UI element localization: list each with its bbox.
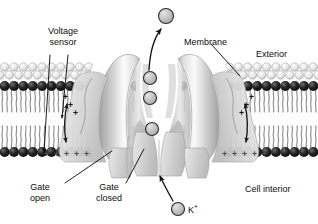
lipid-headgroup <box>290 147 300 157</box>
arrow-ion-entry <box>160 176 173 201</box>
ion-pore-lower <box>146 123 159 136</box>
lipid-headgroup <box>253 63 261 71</box>
lipid-headgroup <box>0 71 4 79</box>
gate-closed-right <box>161 132 186 176</box>
lipid-headgroup <box>0 147 10 157</box>
lipid-headgroup <box>234 63 242 71</box>
lipid-headgroup <box>262 81 272 91</box>
lipid-headgroup <box>276 71 284 79</box>
lipid-headgroup <box>258 71 266 79</box>
lipid-headgroup <box>38 63 46 71</box>
lipid-headgroup <box>299 81 309 91</box>
lipid-headgroup <box>244 63 252 71</box>
lipid-headgroup <box>75 63 83 71</box>
lipid-headgroup <box>150 63 158 71</box>
lipid-headgroup <box>28 147 38 157</box>
lipid-headgroup <box>290 63 298 71</box>
lipid-headgroup <box>271 147 281 157</box>
lipid-headgroup <box>308 81 318 91</box>
lipid-headgroup <box>281 63 289 71</box>
lipid-headgroup <box>37 81 47 91</box>
lipid-headgroup <box>159 81 169 91</box>
svg-text:+: + <box>57 84 62 94</box>
lipid-headgroup <box>5 71 13 79</box>
lipid-headgroup <box>85 63 93 71</box>
lipid-headgroup <box>248 71 256 79</box>
svg-text:+: + <box>249 92 254 102</box>
svg-text:+: + <box>255 84 260 94</box>
ion-pore-upper <box>144 72 157 85</box>
gate-open-right <box>185 148 209 178</box>
lipid-headgroup <box>216 63 224 71</box>
ion-charge-text: + <box>194 203 198 210</box>
lipid-headgroup <box>286 71 294 79</box>
lipid-headgroup <box>19 63 27 71</box>
lipid-headgroup <box>15 71 23 79</box>
lipid-headgroup <box>10 63 18 71</box>
svg-text:+: + <box>84 149 89 159</box>
lipid-headgroup <box>9 81 19 91</box>
lipid-headgroup <box>52 71 60 79</box>
ion-legend <box>172 203 185 216</box>
svg-text:+: + <box>222 149 227 159</box>
lipid-headgroup <box>159 63 167 71</box>
lipid-headgroup <box>299 147 309 157</box>
lipid-headgroup <box>9 147 19 157</box>
lipid-headgroup <box>300 63 308 71</box>
svg-text:+: + <box>54 149 59 159</box>
figure-root: + + + + + + + + + + + + + + + + + + <box>0 0 318 224</box>
lipid-headgroup <box>262 63 270 71</box>
lipid-headgroup <box>47 63 55 71</box>
lipid-headgroup <box>43 71 51 79</box>
lipid-headgroup <box>28 81 38 91</box>
lipid-headgroup <box>29 63 37 71</box>
label-cell-interior: Cell interior <box>245 184 291 195</box>
gate-open <box>109 148 133 178</box>
svg-text:+: + <box>232 149 237 159</box>
lipid-headgroup <box>267 71 275 79</box>
lipid-headgroup <box>309 63 317 71</box>
lipid-headgroup <box>290 81 300 91</box>
lipid-headgroup <box>18 147 28 157</box>
label-voltage-sensor: Voltage sensor <box>32 26 94 47</box>
label-membrane: Membrane <box>184 37 227 48</box>
lipid-headgroup <box>0 81 10 91</box>
lipid-headgroup <box>0 63 8 71</box>
lipid-headgroup <box>280 147 290 157</box>
lipid-headgroup <box>308 147 318 157</box>
lipid-headgroup <box>33 71 41 79</box>
lipid-headgroup <box>24 71 32 79</box>
svg-text:+: + <box>44 149 49 159</box>
svg-text:+: + <box>74 149 79 159</box>
svg-text:+: + <box>239 108 244 118</box>
lipid-headgroup <box>18 81 28 91</box>
svg-text:+: + <box>242 149 247 159</box>
svg-text:+: + <box>262 149 267 159</box>
lipid-headgroup <box>295 71 303 79</box>
lipid-headgroup <box>314 71 318 79</box>
lipid-headgroup <box>280 81 290 91</box>
lipid-headgroup <box>57 63 65 71</box>
ion-exiting <box>159 9 174 24</box>
label-gate-closed: Gate closed <box>78 182 140 203</box>
label-potassium-ion: K+ <box>188 203 198 215</box>
ion-pore-mid <box>144 92 157 105</box>
label-exterior: Exterior <box>256 49 287 60</box>
gate-closed-left <box>132 132 157 176</box>
lipid-headgroup <box>271 81 281 91</box>
label-gate-open: Gate open <box>12 182 68 203</box>
svg-text:+: + <box>64 149 69 159</box>
svg-text:+: + <box>252 149 257 159</box>
lipid-headgroup <box>304 71 312 79</box>
lipid-headgroup <box>272 63 280 71</box>
lipid-headgroup <box>94 63 102 71</box>
svg-text:+: + <box>73 108 78 118</box>
